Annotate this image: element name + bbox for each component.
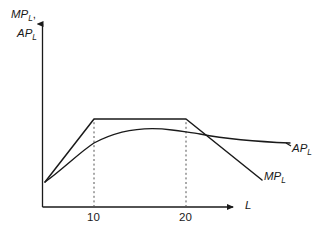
curve-label-ap-text: AP	[292, 142, 307, 154]
y-axis-label-ap-subscript: L	[32, 33, 37, 42]
ap-curve	[45, 129, 290, 182]
curve-label-ap-subscript: L	[307, 148, 312, 157]
curve-label-mp: MPL	[264, 171, 286, 186]
y-axis-label-mp: MPL,	[11, 9, 36, 24]
curve-label-ap: APL	[292, 143, 312, 158]
chart-plot-area	[0, 0, 322, 234]
y-axis-label-ap: APL	[17, 28, 37, 43]
x-tick-label-10: 10	[87, 212, 100, 224]
x-tick-label-20: 20	[179, 212, 192, 224]
figure-canvas: MPL, APL APL MPL L 10 20	[0, 0, 322, 234]
curve-label-mp-text: MP	[264, 170, 281, 182]
y-axis-label-mp-text: MP	[11, 8, 28, 20]
curve-label-mp-subscript: L	[281, 176, 286, 185]
y-axis-label-mp-comma: ,	[33, 8, 36, 20]
x-axis-label: L	[245, 200, 251, 212]
y-axis-label-ap-text: AP	[17, 27, 32, 39]
